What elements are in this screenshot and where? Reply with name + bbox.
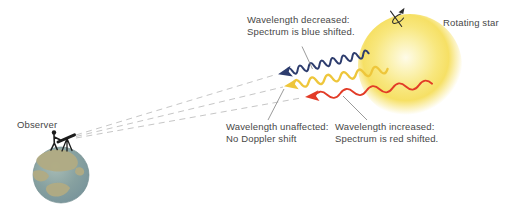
label-rotating-star-text: Rotating star [443, 17, 499, 29]
rotating-star [358, 14, 462, 118]
leader-red-shift [343, 96, 367, 120]
label-rotating-star: Rotating star [443, 17, 499, 29]
label-red-shift-line2: Spectrum is red shifted. [335, 133, 438, 145]
earth-globe [33, 147, 89, 203]
label-blue-shift-line2: Spectrum is blue shifted. [247, 26, 355, 38]
label-red-shift: Wavelength increased: Spectrum is red sh… [335, 121, 438, 145]
label-observer-text: Observer [17, 119, 57, 131]
label-no-shift: Wavelength unaffected: No Doppler shift [226, 121, 329, 145]
label-blue-shift: Wavelength decreased: Spectrum is blue s… [247, 14, 355, 38]
label-observer: Observer [17, 119, 57, 131]
label-red-shift-line1: Wavelength increased: [335, 121, 438, 133]
leader-blue-shift [302, 47, 313, 70]
label-no-shift-line1: Wavelength unaffected: [226, 121, 329, 133]
leader-no-shift [268, 89, 284, 120]
star-disk [358, 14, 462, 118]
doppler-rotating-star-diagram: Wavelength decreased: Spectrum is blue s… [0, 0, 514, 205]
label-blue-shift-line1: Wavelength decreased: [247, 14, 355, 26]
label-no-shift-line2: No Doppler shift [226, 133, 329, 145]
